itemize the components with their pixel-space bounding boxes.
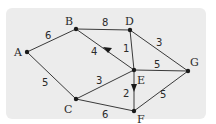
node-G	[186, 69, 190, 73]
weight-D-E: 1	[123, 43, 129, 54]
graph-diagram: A B C D E F G 6 5 8 4 1 3 3 5 2 6 5	[0, 0, 216, 124]
weight-E-B: 4	[91, 46, 97, 57]
node-A	[25, 50, 29, 54]
weight-E-G: 5	[154, 59, 160, 70]
weight-A-B: 6	[45, 30, 51, 41]
node-B	[74, 27, 78, 31]
node-E	[132, 68, 136, 72]
weight-B-D: 8	[102, 17, 108, 28]
arrow-E-to-B-icon	[103, 47, 112, 53]
node-label-A: A	[13, 46, 23, 59]
node-label-D: D	[125, 15, 134, 28]
edge-A-B	[27, 29, 76, 52]
node-C	[74, 97, 78, 101]
edge-B-D	[76, 29, 130, 30]
edge-E-G	[134, 70, 188, 71]
weight-D-G: 3	[156, 37, 162, 48]
node-label-G: G	[190, 56, 199, 69]
weight-A-C: 5	[42, 77, 48, 88]
node-label-C: C	[64, 103, 72, 116]
node-label-E: E	[137, 74, 145, 87]
weight-C-F: 6	[102, 109, 108, 120]
node-label-F: F	[137, 113, 145, 124]
weight-C-E: 3	[96, 75, 102, 86]
node-label-B: B	[65, 15, 73, 28]
node-D	[128, 28, 132, 32]
node-F	[132, 109, 136, 113]
weight-E-F: 2	[123, 88, 129, 99]
edge-D-E	[130, 30, 134, 70]
edge-A-C	[27, 52, 76, 99]
weight-F-G: 5	[160, 89, 166, 100]
